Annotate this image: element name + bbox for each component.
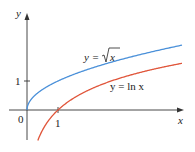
origin-label: 0 (18, 113, 24, 125)
y-axis-arrow-icon (25, 13, 30, 20)
ln-label: y = ln x (110, 80, 145, 92)
sqrt-label-arg: x (109, 51, 115, 63)
y-axis-label: y (15, 7, 21, 19)
sqrt-curve (27, 45, 182, 110)
chart: y x 0 1 1 y = x y = ln x (0, 0, 195, 152)
x-tick-label-1: 1 (55, 117, 61, 129)
sqrt-label-prefix: y = (83, 51, 99, 63)
x-axis-arrow-icon (177, 108, 184, 113)
y-tick-label-1: 1 (15, 75, 21, 87)
x-axis-label: x (177, 114, 183, 126)
